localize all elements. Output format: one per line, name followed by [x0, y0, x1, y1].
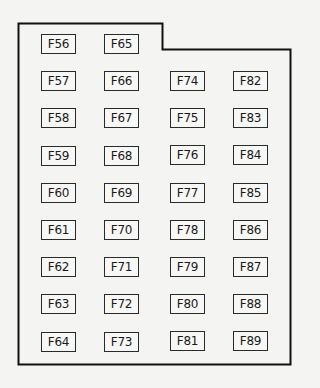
fuse-f68: F68	[104, 146, 139, 166]
fuse-f72: F72	[104, 294, 139, 314]
fuse-f61: F61	[41, 220, 76, 240]
fuse-f86: F86	[233, 220, 268, 240]
fuse-f74: F74	[170, 71, 205, 91]
fuse-f76: F76	[170, 145, 205, 165]
fuse-f66: F66	[104, 71, 139, 91]
fuse-f83: F83	[233, 108, 268, 128]
fuse-f80: F80	[170, 294, 205, 314]
fuse-f69: F69	[104, 183, 139, 203]
fuse-f63: F63	[41, 294, 76, 314]
fuse-f58: F58	[41, 108, 76, 128]
fuse-f71: F71	[104, 257, 139, 277]
fuse-f56: F56	[41, 34, 76, 54]
fuse-f88: F88	[233, 294, 268, 314]
fuse-f59: F59	[41, 146, 76, 166]
fuse-f60: F60	[41, 183, 76, 203]
fuse-f75: F75	[170, 108, 205, 128]
fuse-f84: F84	[233, 145, 268, 165]
fuse-f57: F57	[41, 71, 76, 91]
fuse-f89: F89	[233, 331, 268, 351]
fuse-f81: F81	[170, 331, 205, 351]
fuse-f65: F65	[104, 34, 139, 54]
fuse-f85: F85	[233, 183, 268, 203]
fuse-f79: F79	[170, 257, 205, 277]
fuse-f67: F67	[104, 108, 139, 128]
fuse-f70: F70	[104, 220, 139, 240]
fuse-f64: F64	[41, 332, 76, 352]
fuse-f78: F78	[170, 220, 205, 240]
fuse-f73: F73	[104, 332, 139, 352]
fuse-f77: F77	[170, 183, 205, 203]
fuse-f87: F87	[233, 257, 268, 277]
fuse-f82: F82	[233, 71, 268, 91]
fuse-f62: F62	[41, 257, 76, 277]
